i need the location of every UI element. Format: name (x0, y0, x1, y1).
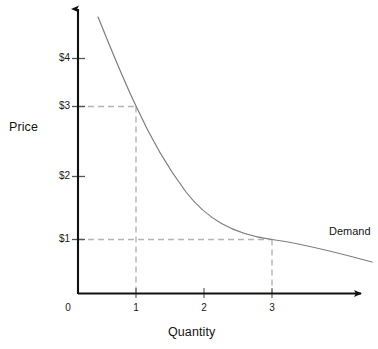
xtick-label-2: 2 (197, 302, 211, 313)
demand-curve-chart: $4 $3 $2 $1 0 1 2 3 Price Quantity Deman… (0, 0, 378, 349)
y-axis-title: Price (9, 120, 38, 134)
demand-curve-label: Demand (329, 225, 371, 237)
ytick-label-1: $1 (48, 233, 70, 244)
xtick-label-0: 0 (61, 302, 75, 313)
ytick-label-3: $3 (48, 100, 70, 111)
xtick-label-1: 1 (129, 302, 143, 313)
x-axis-title: Quantity (168, 325, 215, 339)
ytick-label-2: $2 (48, 170, 70, 181)
ytick-label-4: $4 (48, 52, 70, 63)
xtick-label-3: 3 (265, 302, 279, 313)
